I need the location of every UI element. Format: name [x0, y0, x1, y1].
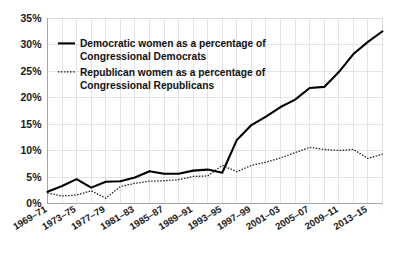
y-axis-tick-label: 15% [20, 118, 42, 130]
y-axis-tick-labels: 0%5%10%15%20%25%30%35% [20, 12, 42, 210]
y-axis-tick-label: 25% [20, 65, 42, 77]
series-line-republican [48, 147, 383, 198]
y-axis-tick-label: 30% [20, 38, 42, 50]
chart-legend: Democratic women as a percentage ofCongr… [58, 38, 266, 91]
y-axis-tick-label: 35% [20, 12, 42, 24]
chart-container: 0%5%10%15%20%25%30%35% 1969–711973–75197… [0, 0, 408, 264]
legend-label-line2: Congressional Republicans [80, 80, 214, 91]
x-axis-tick-labels: 1969–711973–751977–791981–831985–871989–… [11, 203, 370, 232]
legend-label-line2: Congressional Democrats [80, 51, 207, 62]
x-axis-tick-label: 2013–15 [331, 203, 369, 232]
line-chart: 0%5%10%15%20%25%30%35% 1969–711973–75197… [0, 0, 408, 264]
y-axis-tick-label: 5% [26, 171, 42, 183]
legend-label-line1: Republican women as a percentage of [80, 67, 266, 78]
legend-label-line1: Democratic women as a percentage of [80, 38, 266, 49]
y-axis-tick-label: 10% [20, 144, 42, 156]
y-axis-tick-label: 20% [20, 91, 42, 103]
